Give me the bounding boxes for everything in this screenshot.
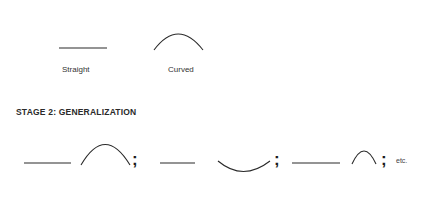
row-arc-up-large <box>81 145 130 166</box>
semicolon-separator-3: ; <box>381 151 387 168</box>
semicolon-separator-2: ; <box>274 151 280 168</box>
diagram-canvas <box>0 0 424 197</box>
row-arc-down-shallow <box>218 161 270 172</box>
curved-arc-example <box>154 34 203 50</box>
row-arc-up-small <box>352 151 376 164</box>
etc-text: etc. <box>396 157 407 164</box>
semicolon-separator-1: ; <box>132 151 138 168</box>
straight-label: Straight <box>62 65 90 74</box>
curved-label: Curved <box>168 65 194 74</box>
stage2-heading: STAGE 2: GENERALIZATION <box>16 107 136 117</box>
